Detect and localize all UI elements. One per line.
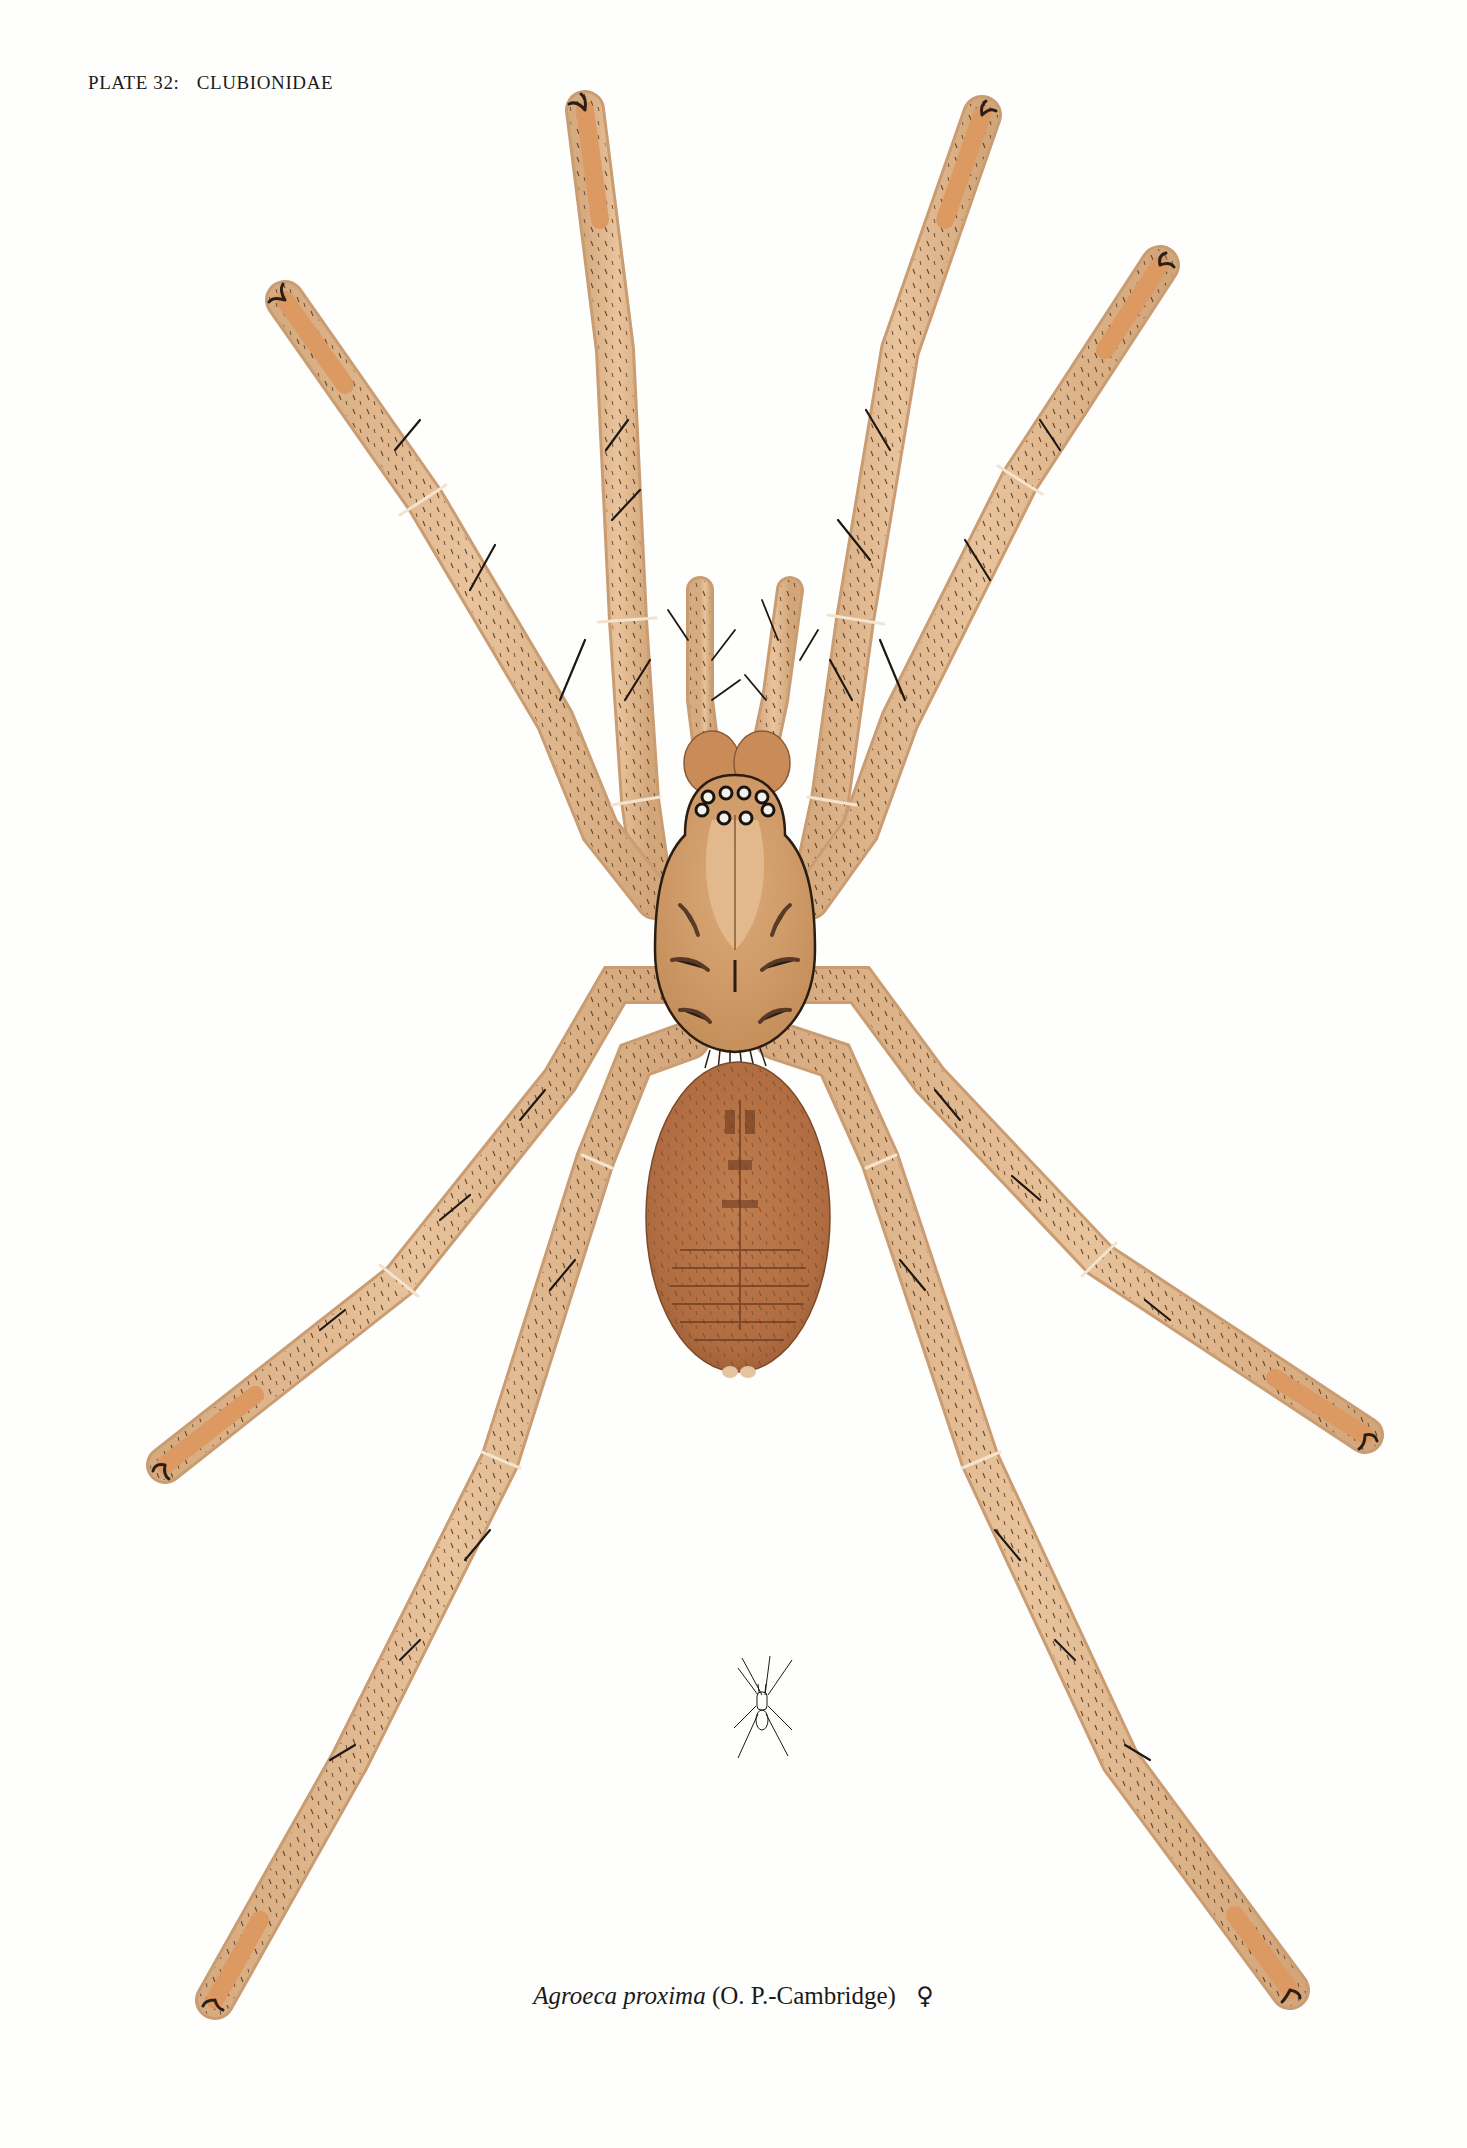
- scale-figure: [712, 1648, 812, 1768]
- spider-illustration: [0, 0, 1467, 2148]
- abdomen: [646, 1062, 830, 1378]
- species-name: Agroeca proxima: [533, 1982, 705, 2009]
- female-symbol-icon: ♀: [916, 1982, 934, 2010]
- species-caption: Agroeca proxima (O. P.-Cambridge) ♀: [0, 1982, 1467, 2010]
- plate-page: PLATE 32: CLUBIONIDAE: [0, 0, 1467, 2148]
- carapace: [655, 775, 815, 1052]
- species-authority: (O. P.-Cambridge): [712, 1982, 896, 2009]
